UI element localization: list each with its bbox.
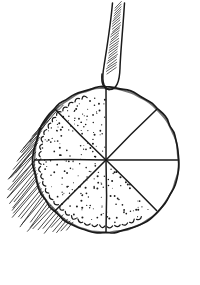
stipple-dot	[45, 161, 46, 162]
rind-scallop-arc	[45, 189, 48, 194]
stipple-dot	[97, 175, 99, 177]
stipple-dot	[79, 163, 80, 164]
stipple-dot	[91, 219, 92, 220]
stipple-dot	[43, 163, 45, 165]
segment-divider-segment-se	[106, 160, 157, 211]
segment-divider-segment-nw	[55, 109, 106, 160]
stipple-dot	[57, 124, 58, 125]
stipple-dot	[112, 173, 113, 174]
stipple-dot	[101, 183, 103, 185]
stipple-dot	[81, 207, 83, 209]
stipple-dot	[60, 129, 62, 131]
hatched-cast-shadow	[7, 105, 73, 233]
rind-scallop-arc	[122, 223, 127, 225]
stipple-dot	[83, 149, 84, 150]
segment-divider-segment-w	[35, 159, 107, 160]
stipple-dot	[70, 168, 72, 170]
stipple-dot	[74, 118, 75, 119]
stipple-dot	[104, 117, 105, 118]
stipple-dot	[93, 132, 94, 133]
stipple-dot	[96, 111, 97, 112]
stipple-dot	[69, 205, 71, 207]
rind-scallop-arc	[107, 226, 112, 228]
stipple-dot	[73, 182, 74, 183]
stipple-dot	[96, 146, 97, 147]
stipple-dot	[94, 98, 95, 99]
stipple-dot	[85, 187, 87, 189]
stipple-dot	[68, 116, 70, 118]
stipple-dot	[95, 163, 96, 164]
stipple-dot	[54, 141, 55, 142]
rind-scallop-arc	[82, 96, 87, 99]
stipple-dot	[103, 213, 104, 214]
stipple-dot	[66, 150, 68, 152]
rind-scallop-arc	[63, 107, 67, 111]
stipple-dot	[80, 121, 82, 123]
stipple-dot	[44, 168, 46, 170]
segment-divider-segment-s	[106, 160, 107, 232]
stipple-dot	[47, 141, 48, 142]
stipple-dot	[92, 114, 94, 116]
stipple-dot	[98, 103, 100, 105]
stipple-dot	[108, 185, 110, 187]
stipple-dot	[89, 147, 91, 149]
stipple-dot	[103, 187, 104, 188]
rind-scallop-arc	[65, 211, 69, 215]
stipple-dot	[133, 210, 134, 211]
stipple-dot	[125, 213, 127, 215]
stipple-dot	[94, 165, 96, 167]
rind-scallop-arc	[48, 123, 51, 128]
stipple-dot	[96, 113, 97, 114]
stipple-dot	[92, 151, 94, 153]
stipple-dot	[60, 135, 62, 137]
stipple-dot	[67, 110, 68, 111]
stipple-dot	[94, 134, 96, 136]
stipple-dot	[66, 172, 68, 174]
stipple-dot	[59, 143, 60, 144]
rind-scallop-arc	[60, 206, 64, 210]
rind-scallop-arc	[75, 98, 80, 101]
stipple-dot	[86, 119, 87, 120]
stipple-dot	[98, 172, 99, 173]
stipple-dot	[137, 209, 139, 211]
stipple-dot	[62, 126, 64, 128]
rind-scallop-arc	[92, 225, 98, 227]
stipple-dot	[137, 200, 138, 201]
fruit-illustration-svg	[0, 0, 200, 285]
stipple-dot	[62, 192, 63, 193]
stipple-dot	[42, 147, 44, 149]
stipple-dot	[87, 130, 88, 131]
stipple-dot	[100, 134, 101, 135]
stipple-dot	[111, 180, 113, 182]
stipple-dot	[110, 195, 112, 197]
stipple-dot	[80, 200, 82, 202]
stipple-dot	[90, 171, 91, 172]
stipple-dot	[125, 181, 127, 183]
stipple-dot	[72, 189, 73, 190]
rind-scallop-arc	[39, 166, 41, 172]
stipple-dot	[93, 208, 94, 209]
stipple-dot	[89, 100, 91, 102]
stipple-dot	[110, 169, 111, 170]
stipple-dot	[85, 124, 87, 126]
stipple-dot	[119, 176, 121, 178]
stipple-dot	[101, 214, 103, 216]
stipple-dot	[96, 188, 98, 190]
stipple-dot	[77, 125, 79, 127]
stipple-dot	[68, 129, 69, 130]
stipple-dot	[94, 156, 96, 158]
stipple-dot	[73, 214, 75, 216]
rind-scallop-arc	[49, 195, 53, 199]
stipple-dot	[114, 195, 116, 197]
stipple-dot	[101, 124, 102, 125]
rind-scallop-arc	[85, 223, 91, 225]
stipple-dot	[123, 211, 124, 212]
rind-scallop-arc	[41, 136, 43, 142]
stipple-dot	[112, 188, 113, 189]
stipple-dot	[89, 171, 90, 172]
stipple-dot	[141, 206, 142, 207]
rind-scallop-arc	[39, 159, 41, 164]
stipple-dot	[53, 151, 55, 153]
stipple-dot	[85, 167, 87, 169]
stipple-dot	[57, 130, 58, 131]
